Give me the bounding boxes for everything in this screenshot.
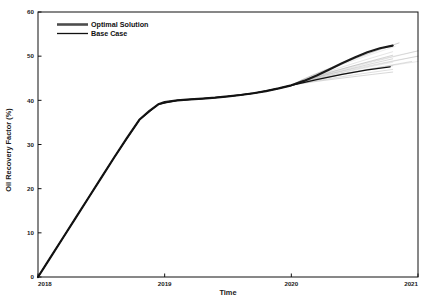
ensemble-realizations xyxy=(38,43,418,277)
y-axis-tick-label: 20 xyxy=(27,185,34,192)
x-axis-tick-label: 2019 xyxy=(158,280,172,287)
ensemble-realization-line xyxy=(38,56,418,277)
ensemble-realization-line xyxy=(38,56,418,277)
tick-label-layer: 01020304050602018201920202021 xyxy=(27,8,418,286)
axis-layer xyxy=(38,12,418,277)
ensemble-realization-line xyxy=(38,51,418,277)
plot-frame xyxy=(38,12,418,277)
x-axis-tick-label: 2021 xyxy=(404,280,418,287)
y-axis-tick-label: 40 xyxy=(27,97,34,104)
ensemble-realization-line xyxy=(38,46,395,277)
chart-canvas: 01020304050602018201920202021 Optimal So… xyxy=(0,0,432,308)
ensemble-realization-line xyxy=(38,62,393,277)
ensemble-realization-line xyxy=(38,61,412,277)
legend-label-optimal-solution: Optimal Solution xyxy=(91,20,149,29)
y-axis-tick-label: 30 xyxy=(27,141,34,148)
ensemble-realization-line xyxy=(38,59,393,277)
x-axis-tick-label: 2020 xyxy=(284,280,298,287)
x-axis-title: Time xyxy=(219,288,236,297)
y-axis-title: Oil Recovery Factor (%) xyxy=(4,108,13,192)
series-layer xyxy=(38,46,393,277)
y-axis-tick-label: 50 xyxy=(27,52,34,59)
x-axis-tick-label: 2018 xyxy=(38,280,52,287)
y-axis-tick-label: 10 xyxy=(27,229,34,236)
ensemble-realization-line xyxy=(38,51,418,277)
ensemble-realization-line xyxy=(38,72,393,277)
series-line-optimal-solution xyxy=(38,46,393,277)
ensemble-realization-line xyxy=(38,61,418,277)
legend-label-base-case: Base Case xyxy=(91,29,127,38)
ensemble-realization-line xyxy=(38,52,393,277)
chart-legend: Optimal Solution Base Case xyxy=(57,20,149,38)
y-axis-tick-label: 0 xyxy=(31,273,35,280)
ensemble-realization-line xyxy=(38,55,393,277)
ensemble-realization-line xyxy=(38,69,393,277)
oil-recovery-factor-chart: 01020304050602018201920202021 Optimal So… xyxy=(0,0,432,308)
y-axis-tick-label: 60 xyxy=(27,8,34,15)
